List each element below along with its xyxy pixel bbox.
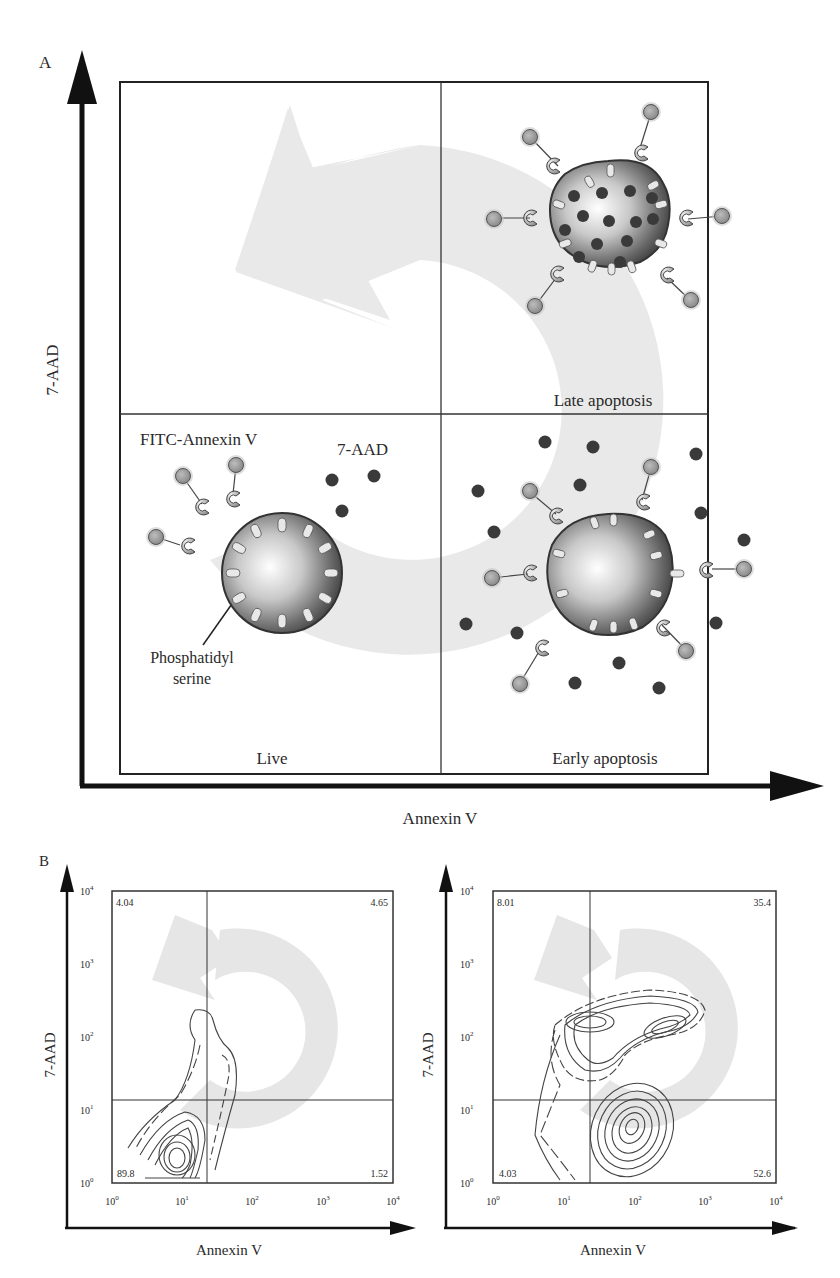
x-ticks: 100 101 102 103 104 bbox=[105, 1194, 400, 1207]
svg-text:101: 101 bbox=[175, 1194, 189, 1207]
y-axis-label: 7-AAD bbox=[43, 345, 62, 396]
y-ticks: 104 103 102 101 100 bbox=[80, 884, 94, 1189]
live-cell-icon bbox=[222, 513, 342, 633]
svg-text:101: 101 bbox=[460, 1103, 474, 1116]
svg-text:101: 101 bbox=[80, 1103, 94, 1116]
quadrant-value-lr: 1.52 bbox=[371, 1168, 389, 1179]
svg-text:103: 103 bbox=[460, 957, 474, 970]
quadrant-value-ul: 8.01 bbox=[497, 897, 515, 908]
quadrant-value-ll: 4.03 bbox=[499, 1168, 517, 1179]
quadrant-value-ul: 4.04 bbox=[116, 897, 134, 908]
svg-text:103: 103 bbox=[80, 957, 94, 970]
figure-canvas: A 7-AAD Annexin V Late apoptosis Live Ea… bbox=[0, 0, 840, 1278]
quadrant-value-ur: 35.4 bbox=[754, 897, 772, 908]
svg-text:100: 100 bbox=[105, 1194, 119, 1207]
svg-text:102: 102 bbox=[80, 1030, 94, 1043]
panel-a: A 7-AAD Annexin V Late apoptosis Live Ea… bbox=[39, 50, 824, 828]
panel-a-label: A bbox=[39, 53, 52, 72]
x-ticks: 100 101 102 103 104 bbox=[486, 1194, 783, 1207]
x-axis-label: Annexin V bbox=[580, 1242, 646, 1258]
svg-text:103: 103 bbox=[698, 1194, 712, 1207]
flow-plot-treated: 104 103 102 101 100 100 101 102 103 104 … bbox=[420, 864, 798, 1258]
svg-text:101: 101 bbox=[557, 1194, 571, 1207]
svg-text:102: 102 bbox=[460, 1030, 474, 1043]
y-axis-label: 7-AAD bbox=[420, 1032, 436, 1077]
svg-text:104: 104 bbox=[386, 1194, 400, 1207]
svg-text:104: 104 bbox=[80, 884, 94, 897]
y-ticks: 104 103 102 101 100 bbox=[460, 884, 474, 1189]
y-axis-label: 7-AAD bbox=[42, 1032, 58, 1077]
svg-text:104: 104 bbox=[769, 1194, 783, 1207]
svg-text:100: 100 bbox=[460, 1176, 474, 1189]
svg-text:103: 103 bbox=[316, 1194, 330, 1207]
phosphatidylserine-label-line2: serine bbox=[173, 670, 211, 687]
x-axis-label: Annexin V bbox=[403, 809, 478, 828]
fitc-annexin-label: FITC-Annexin V bbox=[140, 430, 258, 449]
phosphatidylserine-label-line1: Phosphatidyl bbox=[150, 649, 234, 667]
svg-text:100: 100 bbox=[486, 1194, 500, 1207]
quadrant-label-early-apoptosis: Early apoptosis bbox=[552, 749, 657, 768]
quadrant-label-late-apoptosis: Late apoptosis bbox=[554, 391, 653, 410]
flow-plot-untreated: 104 103 102 101 100 100 101 102 103 104 … bbox=[42, 864, 416, 1258]
svg-text:102: 102 bbox=[628, 1194, 642, 1207]
y-axis-arrowhead bbox=[67, 50, 97, 104]
svg-text:104: 104 bbox=[460, 884, 474, 897]
free-annexin-probes bbox=[146, 455, 246, 554]
quadrant-value-ur: 4.65 bbox=[371, 897, 389, 908]
seven-aad-dots-live bbox=[326, 470, 381, 518]
panel-b-label: B bbox=[39, 853, 49, 869]
quadrant-label-live: Live bbox=[256, 749, 287, 768]
seven-aad-label: 7-AAD bbox=[337, 440, 388, 459]
x-axis-arrowhead bbox=[770, 771, 824, 801]
x-axis-label: Annexin V bbox=[196, 1242, 262, 1258]
quadrant-value-lr: 52.6 bbox=[754, 1168, 772, 1179]
svg-text:100: 100 bbox=[80, 1176, 94, 1189]
quadrant-value-ll: 89.8 bbox=[117, 1168, 135, 1179]
svg-text:102: 102 bbox=[245, 1194, 259, 1207]
